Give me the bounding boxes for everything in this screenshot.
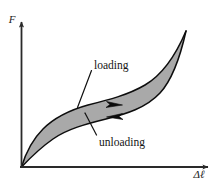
hysteresis-figure: F Δℓ loading unloading <box>0 0 217 181</box>
unloading-label: unloading <box>99 136 145 149</box>
force-elongation-plot: F Δℓ loading unloading <box>0 0 217 181</box>
y-axis-label: F <box>8 13 16 25</box>
x-axis-label: Δℓ <box>192 168 204 180</box>
loading-label: loading <box>94 59 129 72</box>
